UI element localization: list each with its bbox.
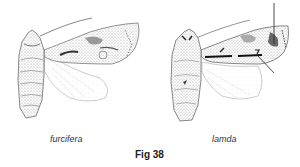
moth-illustration-lamda	[0, 0, 300, 130]
figure-plate: furcifera lamda Fig 38	[0, 0, 300, 167]
caption-lamda: lamda	[212, 134, 237, 144]
figure-label: Fig 38	[135, 149, 164, 160]
caption-furcifera: furcifera	[50, 134, 83, 144]
